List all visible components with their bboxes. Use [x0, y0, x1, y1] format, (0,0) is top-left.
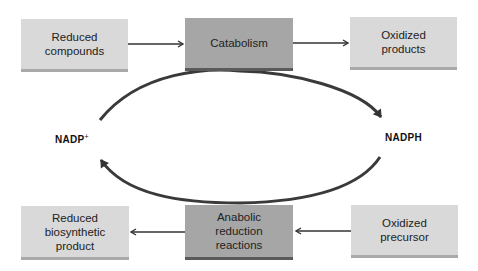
arc-nadp-to-nadph	[100, 70, 381, 120]
box-label: Oxidized precursor	[380, 216, 429, 244]
label-nadp-plus: NADP+	[55, 133, 89, 145]
box-label: Catabolism	[210, 36, 268, 50]
label-nadp-sup: +	[85, 133, 89, 140]
box-label: Reduced biosynthetic product	[45, 211, 106, 253]
box-oxidized-precursor: Oxidized precursor	[351, 205, 458, 258]
box-oxidized-products: Oxidized products	[350, 17, 457, 70]
box-label: Reduced compounds	[45, 30, 104, 58]
box-reduced-biosynthetic-product: Reduced biosynthetic product	[21, 206, 129, 260]
arc-nadph-to-nadp	[101, 157, 380, 203]
box-label: Oxidized products	[381, 28, 426, 56]
label-nadph: NADPH	[385, 132, 422, 143]
box-catabolism: Catabolism	[185, 18, 293, 71]
box-anabolic-reduction-reactions: Anabolic reduction reactions	[185, 205, 293, 260]
label-nadp-base: NADP	[55, 134, 85, 145]
box-label: Anabolic reduction reactions	[215, 210, 262, 252]
box-reduced-compounds: Reduced compounds	[21, 19, 128, 72]
